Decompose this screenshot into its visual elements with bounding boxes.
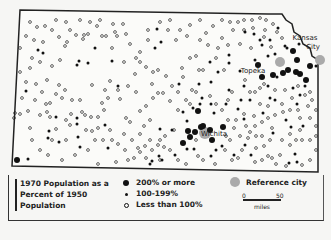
small-dot (261, 44, 264, 47)
large-dot (195, 108, 201, 114)
legend-item-100-199: 100-199% (136, 189, 178, 198)
small-dot (107, 147, 110, 150)
city-label: City (306, 43, 320, 51)
small-dot (199, 103, 202, 106)
small-dot (178, 83, 181, 86)
large-dot (185, 128, 191, 134)
scale-bar (243, 199, 281, 201)
small-dot (240, 99, 243, 102)
legend-title-line3: Population (20, 200, 109, 211)
small-dot (228, 54, 231, 57)
small-dot (244, 144, 247, 147)
scale-end: 50 (276, 192, 284, 199)
small-dot (159, 128, 162, 131)
small-dot (285, 119, 288, 122)
small-dot (288, 162, 291, 165)
small-dot (277, 27, 280, 30)
small-dot (193, 148, 196, 151)
legend-title: 1970 Population as a Percent of 1950 Pop… (20, 178, 109, 211)
small-dot (117, 85, 120, 88)
large-dot (290, 48, 296, 54)
small-dot (47, 137, 50, 140)
small-dot (296, 103, 299, 106)
small-dot (250, 154, 253, 157)
small-dot (79, 146, 82, 149)
small-dot (55, 116, 58, 119)
small-dot (210, 81, 213, 84)
scale-start: 0 (242, 192, 246, 199)
legend-title-bar (15, 179, 17, 211)
small-dot (274, 99, 277, 102)
large-dot (285, 67, 291, 73)
small-dot (160, 41, 163, 44)
small-dot (228, 89, 231, 92)
small-dot (259, 39, 262, 42)
city-label: Kansas (293, 34, 318, 42)
small-dot (296, 161, 299, 164)
legend-title-line2: Percent of 1950 (20, 189, 109, 200)
small-dot (249, 99, 252, 102)
small-dot (228, 62, 231, 65)
small-dot (37, 49, 40, 52)
small-dot (213, 112, 216, 115)
small-dot (233, 154, 236, 157)
large-dot (192, 129, 198, 135)
small-dot (171, 129, 174, 132)
small-dot (274, 53, 277, 56)
small-dot (221, 145, 224, 148)
small-dot (94, 47, 97, 50)
reference-city-marker (315, 55, 325, 65)
small-dot (201, 97, 204, 100)
small-dot (87, 62, 90, 65)
open-dot-icon (124, 203, 129, 208)
large-dot (187, 134, 193, 140)
small-dot (244, 31, 247, 34)
small-dot (298, 43, 301, 46)
small-dot (284, 45, 287, 48)
small-dot (156, 28, 159, 31)
small-dot (304, 85, 307, 88)
small-dot (217, 71, 220, 74)
small-dot (76, 123, 79, 126)
small-dot (292, 87, 295, 90)
small-dot (237, 108, 240, 111)
small-dot (154, 47, 157, 50)
small-dot (186, 148, 189, 151)
small-dot (315, 65, 318, 68)
legend-title-line1: 1970 Population as a (20, 178, 109, 189)
large-dot (297, 71, 303, 77)
small-dot (111, 60, 114, 63)
small-dot (161, 159, 164, 162)
small-dot (48, 130, 51, 133)
reference-city-marker (275, 57, 285, 67)
small-dot (174, 154, 177, 157)
large-dot (14, 157, 20, 163)
small-dot (272, 132, 275, 135)
small-dot (192, 107, 195, 110)
large-dot (180, 140, 186, 146)
small-dot (158, 155, 161, 158)
small-dot (243, 85, 246, 88)
small-dot (267, 85, 270, 88)
small-dot (78, 60, 81, 63)
small-dot (262, 112, 265, 115)
small-dot (25, 90, 28, 93)
city-label: Topeka (240, 67, 265, 75)
small-dot (269, 39, 272, 42)
city-label: Wichita (201, 130, 227, 138)
small-dot (76, 117, 79, 120)
small-dot (267, 55, 270, 58)
reference-city-icon (230, 177, 240, 187)
legend-reference-city: Reference city (246, 178, 307, 187)
large-dot (280, 70, 286, 76)
small-dot (299, 94, 302, 97)
small-dot (77, 136, 80, 139)
small-dot (151, 160, 154, 163)
small-dot (253, 33, 256, 36)
small-dot (76, 64, 79, 67)
small-dot (42, 52, 45, 55)
large-dot (294, 57, 300, 63)
small-dot (149, 163, 152, 166)
small-dot (294, 153, 297, 156)
legend-item-200-plus: 200% or more (136, 178, 195, 187)
